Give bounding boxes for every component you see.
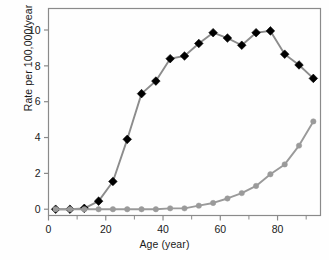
data-point-marker xyxy=(139,207,144,212)
data-point-marker xyxy=(67,207,72,212)
chart-figure: 0246810020406080 Rate per 100,000/year A… xyxy=(0,0,329,260)
series-line-gray-circle-series xyxy=(56,121,314,209)
data-point-marker xyxy=(296,143,301,148)
data-point-marker xyxy=(268,172,273,177)
y-tick-label: 2 xyxy=(35,167,41,179)
data-point-marker xyxy=(266,27,275,36)
y-tick-label: 6 xyxy=(35,95,41,107)
data-point-marker xyxy=(82,207,87,212)
data-point-marker xyxy=(253,183,258,188)
y-tick-label: 0 xyxy=(35,203,41,215)
line-chart-plot: 0246810020406080 xyxy=(0,0,329,260)
data-point-marker xyxy=(210,200,215,205)
y-axis-label: Rate per 100,000/year xyxy=(22,0,34,138)
x-tick-label: 60 xyxy=(214,223,226,235)
data-point-marker xyxy=(239,190,244,195)
x-tick-label: 20 xyxy=(100,223,112,235)
data-point-marker xyxy=(110,207,115,212)
x-axis-label: Age (year) xyxy=(0,238,329,250)
data-point-marker xyxy=(96,207,101,212)
x-tick-label: 80 xyxy=(272,223,284,235)
data-point-marker xyxy=(123,135,132,144)
data-point-marker xyxy=(311,119,316,124)
x-tick-label: 40 xyxy=(157,223,169,235)
data-point-marker xyxy=(223,34,232,43)
data-point-marker xyxy=(167,206,172,211)
y-tick-label: 8 xyxy=(35,60,41,72)
data-point-marker xyxy=(153,207,158,212)
data-point-marker xyxy=(196,203,201,208)
data-point-marker xyxy=(282,162,287,167)
y-tick-label: 4 xyxy=(35,131,41,143)
data-point-marker xyxy=(53,207,58,212)
data-point-marker xyxy=(225,196,230,201)
x-tick-label: 0 xyxy=(46,223,52,235)
data-point-marker xyxy=(182,206,187,211)
data-point-marker xyxy=(125,207,130,212)
plot-frame xyxy=(49,9,321,216)
